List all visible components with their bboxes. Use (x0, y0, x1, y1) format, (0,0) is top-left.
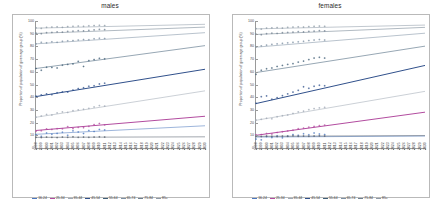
data-point-marker (303, 133, 305, 135)
x-tick-label: 2024 (392, 142, 396, 150)
data-point-marker (46, 136, 48, 138)
legend-item-label: 85+ (382, 196, 388, 200)
data-point-marker (67, 112, 69, 114)
data-point-marker (77, 39, 79, 41)
trend-line (256, 46, 425, 72)
data-point-marker (308, 40, 310, 42)
data-point-marker (77, 131, 79, 133)
y-tick-label: 30 (30, 108, 36, 112)
data-point-marker (260, 139, 262, 141)
y-tick-label: 80 (30, 44, 36, 48)
data-point-marker (303, 40, 305, 42)
legend-item-label: 55-64 (109, 196, 118, 200)
data-point-marker (287, 114, 289, 116)
data-point-marker (282, 115, 284, 117)
legend-item[interactable]: 45-54 (305, 196, 320, 200)
legend-item[interactable]: 35-44 (288, 196, 303, 200)
legend-item-label: 25-34 (56, 196, 65, 200)
x-tick-label: 2012 (108, 142, 112, 150)
trend-line (36, 126, 205, 135)
data-point-marker (67, 40, 69, 42)
x-tick-label: 2005 (71, 142, 75, 150)
plot-area-females: 0102030405060708090100199819992000200120… (255, 21, 425, 149)
x-tick-label: 2022 (381, 142, 385, 150)
data-point-marker (318, 39, 320, 41)
data-point-marker (266, 44, 268, 46)
data-point-marker (72, 130, 74, 132)
data-point-marker (104, 136, 106, 138)
legend-item[interactable]: 25-34 (270, 196, 285, 200)
data-point-marker (271, 43, 273, 45)
data-point-marker (56, 112, 58, 114)
legend-item[interactable]: 65-74 (121, 196, 136, 200)
data-point-marker (276, 33, 278, 35)
legend-females: 16-2425-3435-4445-5455-6465-7475-8485+ (230, 196, 410, 200)
data-point-marker (104, 82, 106, 84)
data-point-marker (324, 39, 326, 41)
x-tick-label: 2013 (334, 142, 338, 150)
y-axis-title-males: Proportion of population of given age gr… (19, 0, 23, 139)
x-tick-label: 2015 (344, 142, 348, 150)
data-point-marker (266, 95, 268, 97)
data-point-marker (292, 41, 294, 43)
legend-item[interactable]: 65-74 (341, 196, 356, 200)
data-point-marker (98, 105, 100, 107)
trend-line (256, 65, 425, 103)
x-tick-label: 2005 (291, 142, 295, 150)
data-point-marker (292, 129, 294, 131)
legend-item[interactable]: 35-44 (68, 196, 83, 200)
y-tick-label: 70 (250, 57, 256, 61)
data-point-marker (292, 91, 294, 93)
data-point-marker (98, 136, 100, 138)
legend-item[interactable]: 75-84 (138, 196, 153, 200)
legend-item-label: 65-74 (127, 196, 136, 200)
data-point-marker (282, 95, 284, 97)
data-point-marker (260, 96, 262, 98)
data-point-marker (56, 137, 58, 139)
x-tick-label: 2025 (397, 142, 401, 150)
data-point-marker (51, 67, 53, 69)
legend-item[interactable]: 75-84 (358, 196, 373, 200)
legend-item[interactable]: 55-64 (103, 196, 118, 200)
series-layer-females (256, 21, 425, 148)
plot-frame-females: Proportion of population of given age gr… (232, 14, 430, 198)
y-tick-label: 70 (30, 57, 36, 61)
legend-item[interactable]: 25-34 (50, 196, 65, 200)
x-tick-label: 2019 (145, 142, 149, 150)
data-point-marker (308, 134, 310, 136)
data-point-marker (292, 26, 294, 28)
data-point-marker (303, 86, 305, 88)
x-tick-label: 2001 (50, 142, 54, 150)
legend-item[interactable]: 16-24 (252, 196, 267, 200)
legend-item[interactable]: 45-54 (85, 196, 100, 200)
legend-item[interactable]: 55-64 (323, 196, 338, 200)
x-tick-label: 2020 (151, 142, 155, 150)
x-tick-label: 2009 (92, 142, 96, 150)
y-tick-label: 80 (250, 44, 256, 48)
x-tick-label: 2002 (56, 142, 60, 150)
data-point-marker (98, 24, 100, 26)
legend-item[interactable]: 85+ (156, 196, 168, 200)
x-tick-label: 2015 (124, 142, 128, 150)
data-point-marker (83, 66, 85, 68)
x-tick-label: 2007 (82, 142, 86, 150)
x-tick-label: 2014 (119, 142, 123, 150)
data-point-marker (297, 61, 299, 63)
x-tick-label: 2027 (408, 142, 412, 150)
legend-item[interactable]: 85+ (376, 196, 388, 200)
x-tick-label: 2020 (371, 142, 375, 150)
panel-males: males Proportion of population of given … (0, 0, 220, 205)
data-point-marker (93, 106, 95, 108)
data-point-marker (93, 29, 95, 31)
data-point-marker (287, 42, 289, 44)
x-tick-label: 2008 (307, 142, 311, 150)
x-tick-label: 2010 (98, 142, 102, 150)
legend-item[interactable]: 16-24 (32, 196, 47, 200)
y-axis-title-females: Proportion of population of given age gr… (239, 0, 243, 139)
data-point-marker (67, 64, 69, 66)
data-point-marker (313, 57, 315, 59)
data-point-marker (313, 85, 315, 87)
data-point-marker (318, 84, 320, 86)
y-tick-label: 40 (30, 95, 36, 99)
legend-swatch-icon (121, 198, 126, 199)
